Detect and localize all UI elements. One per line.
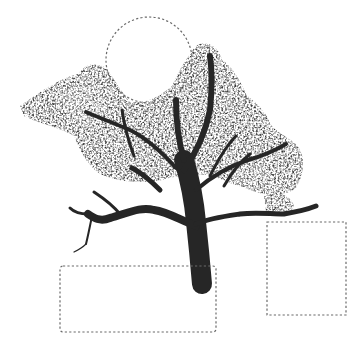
tree-scene (0, 0, 361, 345)
ground-right-rect-annotation[interactable] (267, 222, 346, 315)
image-canvas (0, 0, 361, 345)
